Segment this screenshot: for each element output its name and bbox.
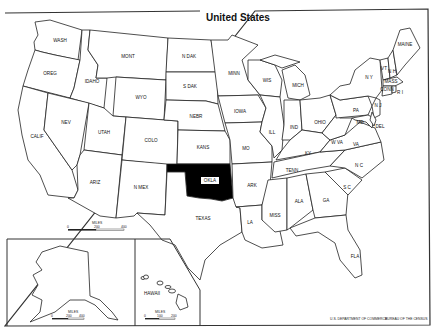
state-label-or: OREG [43, 71, 57, 76]
state-ny[interactable] [330, 58, 382, 100]
state-label-de: DEL [376, 124, 385, 129]
state-label-vt: VT [381, 66, 387, 71]
state-label-mi: MICH [292, 83, 304, 88]
hawaii-scale: MILES 0 100 200 [144, 310, 177, 319]
hawaii-scale-tick: 200 [171, 314, 177, 318]
state-fl[interactable] [290, 215, 362, 278]
state-label-ok: OKLA [204, 178, 217, 183]
state-label-ny: N Y [365, 75, 373, 80]
state-label-ca: CALIF [30, 134, 43, 139]
state-label-me: MAINE [398, 42, 413, 47]
main-scale: MILES 0 200 400 [67, 221, 127, 231]
state-label-wa: WASH [53, 38, 67, 43]
state-label-ne: NEBR [190, 114, 203, 119]
main-scale-bar-dark [68, 229, 96, 231]
us-map: United States WASHOREGCALIFIDAHONEVMON [0, 0, 438, 334]
state-label-ut: UTAH [98, 130, 110, 135]
state-label-ct: CONN [380, 87, 394, 92]
state-label-ga: GA [323, 198, 331, 203]
state-label-ks: KANS [197, 145, 210, 150]
state-label-az: ARIZ [90, 180, 101, 185]
state-label-oh: OHIO [314, 120, 326, 125]
state-label-co: COLO [144, 138, 157, 143]
alaska-scale-tick: 400 [79, 314, 85, 318]
hawaii-scale-tick: 100 [157, 314, 163, 318]
state-label-ma: MASS [384, 79, 397, 84]
state-label-id: IDAHO [85, 79, 100, 84]
state-label-ar: ARK [247, 183, 257, 188]
main-scale-bar-light [96, 229, 124, 231]
state-label-il: ILL [269, 130, 276, 135]
state-label-la: LA [247, 220, 254, 225]
alaska-scale-tick: 0 [51, 314, 53, 318]
state-label-mn: MINN [228, 71, 240, 76]
state-label-al: ALA [295, 199, 305, 204]
state-label-nh: N H [388, 69, 396, 74]
credit-department: U.S. DEPARTMENT OF COMMERCE [330, 317, 388, 321]
state-label-wy: WYO [136, 95, 147, 100]
main-scale-tick: 200 [94, 225, 100, 229]
main-scale-tick: 0 [67, 225, 69, 229]
state-label-sc: S C [343, 185, 351, 190]
state-label-ky: KY [305, 151, 311, 156]
state-label-nj: N J [375, 103, 382, 108]
map-title: United States [206, 12, 270, 23]
state-label-nd: N DAK [182, 54, 197, 59]
state-label-hi: HAWAII [144, 291, 160, 296]
credit-bureau: BUREAU OF THE CENSUS [385, 317, 428, 321]
state-label-sd: S DAK [183, 84, 198, 89]
state-label-nv: NEV [61, 120, 71, 125]
state-label-tn: TENN [286, 168, 299, 173]
state-label-ri: R I [397, 90, 403, 95]
state-label-wi: WIS [263, 78, 272, 83]
hawaii-scale-tick: 0 [144, 314, 146, 318]
state-label-tx: TEXAS [195, 216, 210, 221]
state-label-wv: W VA [331, 140, 343, 145]
state-label-pa: PA [353, 108, 360, 113]
state-label-fl: FLA [351, 254, 360, 259]
alaska-scale-tick: 200 [66, 314, 72, 318]
state-label-mo: MO [242, 146, 250, 151]
state-label-md: MD [356, 120, 364, 125]
state-label-nm: N MEX [134, 185, 149, 190]
state-label-nc: N C [355, 163, 364, 168]
main-scale-tick: 400 [121, 225, 127, 229]
state-label-mt: MONT [121, 54, 135, 59]
state-me[interactable] [393, 28, 420, 75]
state-label-ia: IOWA [234, 109, 247, 114]
state-label-va: VA [353, 142, 360, 147]
state-label-in: IND [290, 125, 299, 130]
state-label-ms: MISS [269, 213, 280, 218]
